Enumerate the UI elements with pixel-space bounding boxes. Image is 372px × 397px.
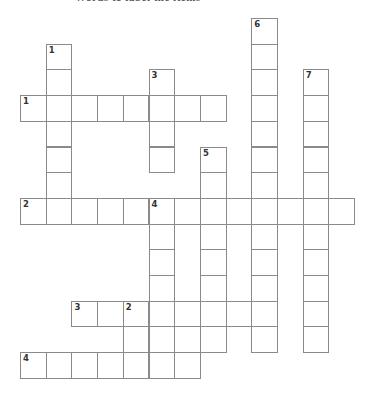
crossword-cell[interactable]	[251, 326, 278, 353]
crossword-cell[interactable]	[251, 44, 278, 71]
crossword-cell[interactable]	[303, 172, 330, 199]
crossword-cell[interactable]	[251, 121, 278, 148]
clue-number: 2	[23, 199, 29, 209]
crossword-cell[interactable]: 4	[149, 198, 176, 225]
crossword-cell[interactable]	[200, 172, 227, 199]
crossword-cell[interactable]	[46, 69, 73, 96]
crossword-cell[interactable]: 2	[20, 198, 47, 225]
crossword-cell[interactable]	[303, 249, 330, 276]
crossword-cell[interactable]	[123, 198, 150, 225]
crossword-cell[interactable]	[303, 121, 330, 148]
clue-number: 3	[74, 302, 80, 312]
crossword-cell[interactable]	[251, 147, 278, 174]
clue-number: 6	[254, 19, 260, 29]
crossword-cell[interactable]	[303, 326, 330, 353]
crossword-cell[interactable]	[46, 352, 73, 379]
crossword-cell[interactable]	[149, 224, 176, 251]
crossword-cell[interactable]	[251, 69, 278, 96]
crossword-cell[interactable]	[123, 352, 150, 379]
crossword-cell[interactable]	[200, 224, 227, 251]
crossword-cell[interactable]	[200, 249, 227, 276]
crossword-cell[interactable]	[251, 95, 278, 122]
crossword-cell[interactable]	[149, 301, 176, 328]
crossword-cell[interactable]	[251, 224, 278, 251]
crossword-cell[interactable]	[174, 198, 201, 225]
crossword-cell[interactable]	[226, 301, 253, 328]
crossword-cell[interactable]	[46, 172, 73, 199]
crossword-cell[interactable]	[71, 352, 98, 379]
crossword-cell[interactable]	[251, 249, 278, 276]
crossword-cell[interactable]	[46, 147, 73, 174]
crossword-cell[interactable]: 5	[200, 147, 227, 174]
crossword-cell[interactable]: 2	[123, 301, 150, 328]
crossword-cell[interactable]	[200, 301, 227, 328]
clue-number: 7	[306, 70, 312, 80]
crossword-cell[interactable]	[149, 121, 176, 148]
clue-number: 4	[152, 199, 158, 209]
crossword-cell[interactable]	[149, 95, 176, 122]
crossword-cell[interactable]	[123, 95, 150, 122]
crossword-cell[interactable]	[123, 326, 150, 353]
crossword-cell[interactable]	[200, 95, 227, 122]
crossword-cell[interactable]	[149, 249, 176, 276]
crossword-cell[interactable]	[71, 198, 98, 225]
crossword-cell[interactable]: 1	[20, 95, 47, 122]
crossword-grid: 12432413567	[0, 0, 372, 397]
crossword-cell[interactable]	[149, 147, 176, 174]
clue-number: 1	[23, 96, 29, 106]
crossword-cell[interactable]	[303, 301, 330, 328]
crossword-cell[interactable]	[200, 275, 227, 302]
crossword-cell[interactable]	[303, 198, 330, 225]
crossword-cell[interactable]	[303, 95, 330, 122]
crossword-cell[interactable]: 4	[20, 352, 47, 379]
crossword-cell[interactable]	[251, 301, 278, 328]
clue-number: 2	[126, 302, 132, 312]
crossword-cell[interactable]	[46, 95, 73, 122]
crossword-cell[interactable]: 6	[251, 18, 278, 45]
crossword-cell[interactable]	[97, 95, 124, 122]
crossword-cell[interactable]	[71, 95, 98, 122]
crossword-cell[interactable]	[251, 172, 278, 199]
clue-number: 5	[203, 148, 209, 158]
crossword-cell[interactable]: 1	[46, 44, 73, 71]
crossword-cell[interactable]	[149, 275, 176, 302]
clue-number: 1	[49, 45, 55, 55]
crossword-cell[interactable]	[303, 147, 330, 174]
crossword-cell[interactable]	[97, 198, 124, 225]
crossword-cell[interactable]	[200, 198, 227, 225]
crossword-cell[interactable]: 3	[71, 301, 98, 328]
crossword-cell[interactable]	[251, 275, 278, 302]
clue-number: 4	[23, 353, 29, 363]
crossword-cell[interactable]: 3	[149, 69, 176, 96]
crossword-cell[interactable]	[97, 301, 124, 328]
crossword-cell[interactable]	[46, 198, 73, 225]
crossword-cell[interactable]	[46, 121, 73, 148]
crossword-cell[interactable]	[149, 352, 176, 379]
clue-number: 3	[152, 70, 158, 80]
crossword-cell[interactable]	[97, 352, 124, 379]
crossword-cell[interactable]	[174, 301, 201, 328]
crossword-cell[interactable]	[174, 95, 201, 122]
crossword-cell[interactable]	[277, 198, 304, 225]
crossword-cell[interactable]	[251, 198, 278, 225]
crossword-cell[interactable]	[226, 198, 253, 225]
crossword-cell[interactable]	[328, 198, 355, 225]
crossword-cell[interactable]	[149, 326, 176, 353]
crossword-cell[interactable]	[200, 326, 227, 353]
crossword-cell[interactable]	[174, 352, 201, 379]
crossword-cell[interactable]	[303, 275, 330, 302]
crossword-cell[interactable]: 7	[303, 69, 330, 96]
crossword-cell[interactable]	[303, 224, 330, 251]
